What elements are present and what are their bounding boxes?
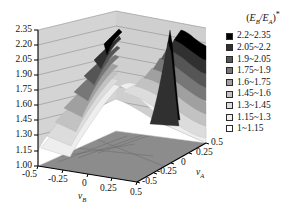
legend-swatch-icon: [226, 44, 233, 51]
z-tick-label-4: 1.75: [0, 85, 32, 95]
legend-item-label: 1.9~2.05: [237, 55, 271, 65]
z-tick-label-5: 1.60: [0, 100, 32, 110]
legend-swatch-icon: [226, 91, 233, 98]
legend-swatch-icon: [226, 33, 233, 40]
legend-swatch-icon: [226, 114, 233, 121]
z-tick-label-0: 2.35: [0, 25, 32, 35]
legend-item-label: 2.2~2.35: [237, 31, 271, 41]
legend-title-star: *: [276, 10, 280, 19]
y-tick-label-4: -0.5: [142, 177, 157, 187]
z-tick-label-6: 1.45: [0, 115, 32, 125]
legend-swatch-icon: [226, 79, 233, 86]
z-tick-label-8: 1.15: [0, 146, 32, 156]
legend-title-slash: /E: [260, 12, 269, 23]
legend-item[interactable]: 1.6~1.75: [226, 77, 304, 89]
legend-item-label: 1~1.15: [237, 124, 264, 134]
legend-item[interactable]: 1.45~1.6: [226, 88, 304, 100]
legend-rows: 2.2~2.352.05~2.21.9~2.051.75~1.91.6~1.75…: [214, 30, 304, 134]
y-axis-label-sub: A: [200, 172, 204, 179]
legend-item[interactable]: 1.3~1.45: [226, 100, 304, 112]
y-tick-label-1: 0.25: [196, 148, 213, 158]
legend-swatch-icon: [226, 56, 233, 63]
legend-title: (EB/EA)*: [222, 10, 304, 25]
legend-swatch-icon: [226, 67, 233, 74]
legend-item[interactable]: 1~1.15: [226, 123, 304, 135]
legend-item[interactable]: 2.05~2.2: [226, 42, 304, 54]
x-tick-label-0: -0.5: [22, 170, 37, 180]
legend-item[interactable]: 1.9~2.05: [226, 54, 304, 66]
legend-title-sub-a: A: [269, 18, 273, 25]
legend: (EB/EA)* 2.2~2.352.05~2.21.9~2.051.75~1.…: [214, 10, 304, 135]
x-axis-label-sub: B: [82, 196, 86, 203]
legend-item[interactable]: 1.15~1.3: [226, 111, 304, 123]
z-tick-label-7: 1.30: [0, 130, 32, 140]
x-tick-label-3: 0.25: [100, 184, 117, 194]
legend-swatch-icon: [226, 125, 233, 132]
y-axis-label: νA: [196, 167, 204, 179]
legend-item-label: 1.6~1.75: [237, 78, 271, 88]
legend-item-label: 1.15~1.3: [237, 113, 271, 123]
y-tick-label-2: 0: [181, 158, 186, 168]
z-tick-marks: [34, 30, 38, 166]
legend-item-label: 2.05~2.2: [237, 43, 271, 53]
y-tick-label-3: -0.25: [157, 167, 177, 177]
x-axis-label: νB: [78, 191, 86, 203]
legend-item-label: 1.75~1.9: [237, 66, 271, 76]
legend-item[interactable]: 2.2~2.35: [226, 30, 304, 42]
legend-swatch-icon: [226, 102, 233, 109]
x-tick-label-1: -0.25: [48, 175, 68, 185]
x-tick-label-2: 0: [82, 179, 87, 189]
x-tick-label-4: 0.5: [130, 188, 142, 198]
z-tick-label-2: 2.05: [0, 55, 32, 65]
z-tick-label-1: 2.20: [0, 40, 32, 50]
legend-item-label: 1.3~1.45: [237, 101, 271, 111]
legend-item[interactable]: 1.75~1.9: [226, 65, 304, 77]
surface-chart-figure: 2.35 2.20 2.05 1.90 1.75 1.60 1.45 1.30 …: [0, 0, 304, 207]
legend-item-label: 1.45~1.6: [237, 89, 271, 99]
z-tick-label-3: 1.90: [0, 70, 32, 80]
